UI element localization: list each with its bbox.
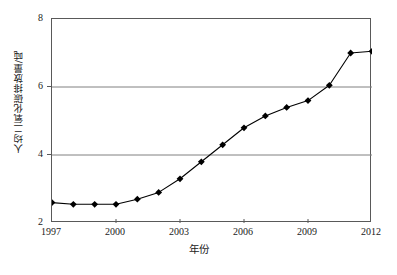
data-series-line bbox=[52, 51, 372, 204]
x-tick-label: 1997 bbox=[31, 226, 71, 237]
plot-area bbox=[51, 18, 371, 222]
data-point-marker bbox=[262, 113, 269, 120]
data-point-marker bbox=[283, 104, 290, 111]
y-axis-title: 人均二氧化碳排放量/吨 bbox=[14, 50, 28, 153]
data-point-marker bbox=[113, 201, 120, 208]
x-tick-label: 2006 bbox=[223, 226, 263, 237]
data-point-marker bbox=[91, 201, 98, 208]
data-point-marker bbox=[52, 199, 55, 206]
data-point-markers bbox=[52, 48, 372, 208]
y-tick-label: 8 bbox=[38, 13, 43, 23]
line-chart-canvas bbox=[52, 19, 372, 223]
data-point-marker bbox=[369, 48, 372, 55]
data-point-marker bbox=[134, 196, 141, 203]
x-axis-title: 年份 bbox=[0, 243, 397, 255]
data-point-marker bbox=[347, 50, 354, 57]
x-tick-label: 2009 bbox=[287, 226, 327, 237]
x-tick-label: 2003 bbox=[159, 226, 199, 237]
x-tickmarks bbox=[116, 219, 308, 223]
gridlines bbox=[52, 87, 372, 155]
data-point-marker bbox=[155, 189, 162, 196]
x-tick-label: 2000 bbox=[95, 226, 135, 237]
chart-figure: 2468 人均二氧化碳排放量/吨 19972000200320062009201… bbox=[0, 0, 397, 275]
x-tick-label: 2012 bbox=[351, 226, 391, 237]
data-point-marker bbox=[70, 201, 77, 208]
y-tick-label: 6 bbox=[38, 81, 43, 91]
y-tick-label: 4 bbox=[38, 149, 43, 159]
